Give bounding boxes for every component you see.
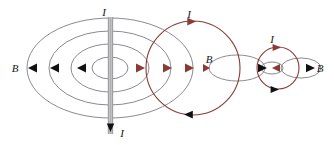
vertical-current-carrying-wire xyxy=(107,17,114,134)
loop-ellipse-arrowheads-group xyxy=(258,64,315,72)
label-I-small-loop: I xyxy=(269,33,275,45)
arrow-B-left-mid xyxy=(50,64,59,73)
arrow-loop-large-bottom xyxy=(184,111,193,119)
label-I-wire-bottom: I xyxy=(119,127,125,139)
arrow-B-right-far xyxy=(203,64,210,72)
physics-figure-magnetic-field: I I B I B I B xyxy=(0,0,334,145)
arrow-B-right-inner xyxy=(136,64,145,73)
figure-canvas: I I B I B I B xyxy=(0,0,334,145)
arrow-loop-small-top xyxy=(273,44,281,51)
label-B-right: B xyxy=(317,62,324,74)
label-I-wire-top: I xyxy=(101,6,107,18)
right-field-arrowheads-group xyxy=(136,64,210,73)
label-B-left: B xyxy=(12,62,19,74)
arrow-B-left-inner xyxy=(77,64,86,73)
arrow-loop-small-bottom xyxy=(271,86,279,93)
label-B-middle: B xyxy=(206,53,213,65)
label-I-big-loop: I xyxy=(186,8,192,20)
arrow-small-loop-center xyxy=(272,64,280,72)
arrow-small-ellipse-right xyxy=(306,64,315,72)
left-field-arrowheads-group xyxy=(28,64,86,73)
arrow-B-left-outer xyxy=(28,64,37,73)
